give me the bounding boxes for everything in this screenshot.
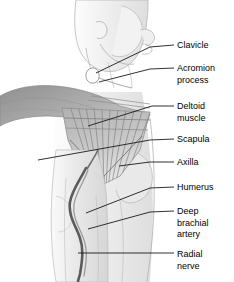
label-axilla: Axilla (177, 157, 199, 169)
label-deep-brachial: Deep brachial artery (177, 206, 209, 241)
label-humerus: Humerus (177, 182, 214, 194)
anatomy-figure: ClavicleAcromion processDeltoid muscleSc… (0, 0, 234, 282)
upper-arm (51, 150, 108, 282)
label-clavicle: Clavicle (177, 40, 209, 52)
label-radial-nerve: Radial nerve (177, 249, 203, 272)
label-deltoid: Deltoid muscle (177, 101, 206, 124)
label-acromion: Acromion process (177, 63, 215, 86)
label-scapula: Scapula (177, 134, 210, 146)
ear (96, 21, 107, 38)
